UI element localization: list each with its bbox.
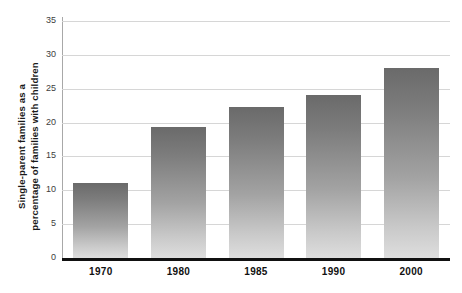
bar — [151, 127, 206, 258]
x-axis-tick-label: 1970 — [71, 266, 131, 277]
x-axis-tick-label: 1985 — [226, 266, 286, 277]
x-axis-tick-label: 1980 — [148, 266, 208, 277]
bar — [73, 183, 128, 258]
y-axis-tick-label: 5 — [34, 218, 56, 228]
y-axis-tick-label: 15 — [34, 150, 56, 160]
x-axis-tick-label: 1990 — [304, 266, 364, 277]
bar — [229, 107, 284, 258]
plot-area — [62, 21, 450, 258]
bar — [306, 95, 361, 258]
x-axis-line — [62, 258, 450, 261]
y-axis-tick-label: 35 — [34, 15, 56, 25]
x-axis-tick-label: 2000 — [381, 266, 441, 277]
bar-chart: Single-parent families as a percentage o… — [0, 0, 462, 293]
y-axis-title-line-1: Single-parent families as a — [16, 84, 28, 209]
y-axis-title: Single-parent families as a percentage o… — [0, 0, 56, 293]
y-axis-tick-label: 10 — [34, 184, 56, 194]
bar — [384, 68, 439, 258]
y-axis-tick-label: 20 — [34, 117, 56, 127]
y-axis-tick-label: 30 — [34, 49, 56, 59]
y-axis-tick-label: 0 — [34, 252, 56, 262]
y-axis-tick-label: 25 — [34, 83, 56, 93]
